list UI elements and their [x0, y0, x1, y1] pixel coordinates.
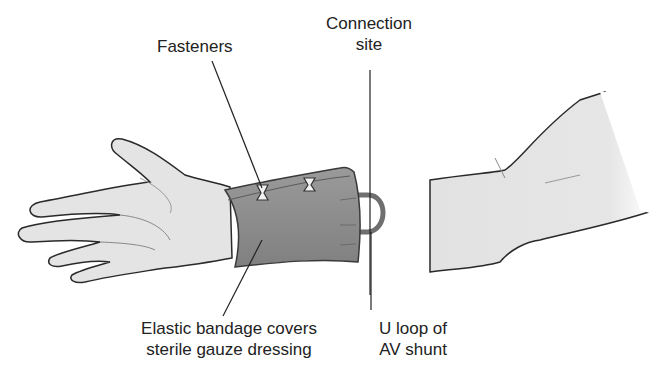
- label-fasteners: Fasteners: [157, 36, 233, 57]
- label-connection-site-line1: Connection: [314, 13, 424, 34]
- label-fasteners-text: Fasteners: [157, 37, 233, 56]
- av-shunt-diagram: Fasteners Connection site Elastic bandag…: [0, 0, 656, 376]
- label-bandage-line1: Elastic bandage covers: [120, 318, 338, 339]
- label-u-loop: U loop of AV shunt: [368, 318, 458, 360]
- elastic-bandage: [225, 167, 360, 267]
- label-elastic-bandage: Elastic bandage covers sterile gauze dre…: [120, 318, 338, 360]
- label-connection-site: Connection site: [314, 13, 424, 55]
- label-u-loop-line1: U loop of: [368, 318, 458, 339]
- hand-shape: [18, 139, 232, 283]
- leader-line-fasteners: [212, 61, 262, 188]
- label-u-loop-line2: AV shunt: [368, 339, 458, 360]
- label-bandage-line2: sterile gauze dressing: [120, 339, 338, 360]
- label-connection-site-line2: site: [314, 34, 424, 55]
